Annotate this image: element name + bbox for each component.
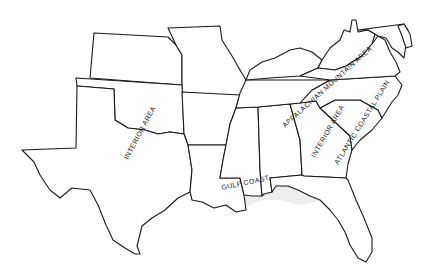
southern-us-map: INTERIOR AREA GULF COAST APPALACHIAN MOU… [0,0,434,276]
state-kansas [90,33,182,85]
map-canvas: INTERIOR AREA GULF COAST APPALACHIAN MOU… [0,0,434,276]
